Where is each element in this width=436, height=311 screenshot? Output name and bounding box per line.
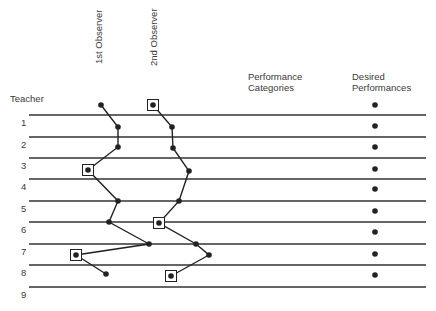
observer2-point: [168, 273, 174, 279]
observer2-point: [169, 124, 175, 130]
observer2-point: [156, 220, 162, 226]
observer1-point: [115, 124, 121, 130]
observer2-point: [186, 168, 192, 174]
desired-performance-point: [372, 186, 378, 192]
observer1-point: [98, 102, 104, 108]
observer1-point: [73, 252, 79, 258]
observer2-point: [193, 241, 199, 247]
observer2-point: [150, 102, 156, 108]
desired-performance-point: [372, 208, 378, 214]
observer2-point: [176, 198, 182, 204]
desired-performance-point: [372, 166, 378, 172]
observer1-point: [85, 167, 91, 173]
observer1-point: [115, 144, 121, 150]
desired-performance-point: [372, 102, 378, 108]
desired-performance-point: [372, 144, 378, 150]
observer1-point: [106, 219, 112, 225]
observer1-point: [115, 198, 121, 204]
desired-performance-point: [372, 251, 378, 257]
desired-performance-point: [372, 123, 378, 129]
observer1-point: [146, 241, 152, 247]
observation-diagram: [0, 0, 436, 311]
observer1-line: [76, 105, 149, 274]
desired-performance-point: [372, 229, 378, 235]
observer2-point: [170, 145, 176, 151]
observer1-point: [103, 271, 109, 277]
observer2-line: [153, 105, 209, 276]
observer2-point: [206, 252, 212, 258]
desired-performance-point: [372, 272, 378, 278]
